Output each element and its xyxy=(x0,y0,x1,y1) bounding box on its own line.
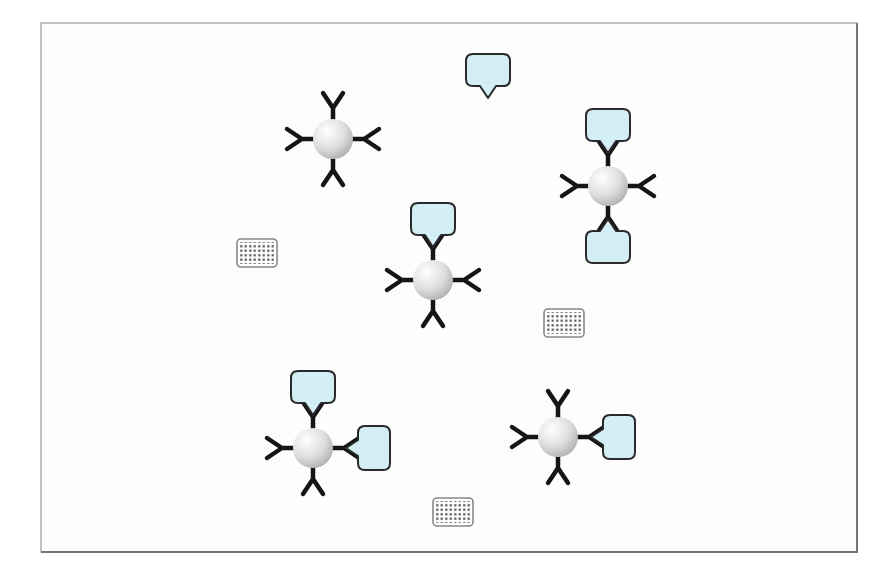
chip-dot-grid xyxy=(240,242,274,264)
chip-dot-grid xyxy=(436,501,470,523)
figure-page xyxy=(0,0,889,580)
chip-middle xyxy=(544,309,584,337)
latex-bead xyxy=(538,417,578,457)
latex-bead xyxy=(588,166,628,206)
chip-bottom xyxy=(433,498,473,526)
latex-bead xyxy=(293,428,333,468)
chip-dot-grid xyxy=(547,312,581,334)
antibody-antigen-agglutination-diagram xyxy=(0,0,889,580)
chip-left xyxy=(237,239,277,267)
latex-bead xyxy=(313,119,353,159)
latex-bead xyxy=(413,260,453,300)
